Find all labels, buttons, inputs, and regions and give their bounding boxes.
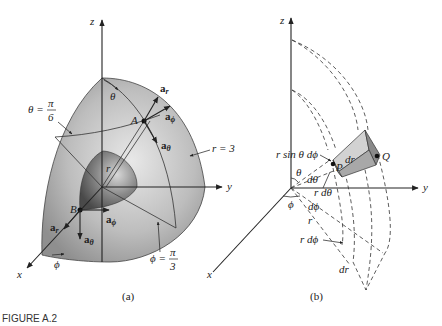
figure-canvas: z y x θ θ = π 6 r = 3 A ar [0, 0, 442, 326]
svg-text:ϕ =: ϕ = [150, 252, 166, 264]
z-axis-label-b: z [279, 14, 285, 26]
theta-arc-b [291, 178, 298, 182]
r-dphi-label: r dϕ [300, 233, 319, 245]
dashed-bottom-1 [353, 253, 385, 290]
phi-arc-b [283, 196, 300, 197]
point-P [331, 162, 336, 167]
dashed-proj-3 [362, 156, 372, 290]
svg-text:B: B [70, 203, 77, 215]
theta-label-a: θ [110, 90, 116, 102]
x-axis-label-b: x [206, 268, 212, 280]
dashed-arc-outer-2 [292, 40, 358, 130]
point-Q [375, 154, 380, 159]
r-sin-theta-dphi-label: r sin θ dϕ [276, 148, 318, 160]
r-sin-theta-dphi-arrow [320, 155, 331, 161]
svg-text:π: π [48, 97, 54, 109]
x-axis-label-a: x [16, 268, 22, 280]
dphi-label: dϕ [308, 200, 320, 212]
panel-a-label: (a) [122, 290, 135, 303]
dr-bottom-label: dr [339, 263, 350, 275]
panel-a: z y x θ θ = π 6 r = 3 A ar [16, 15, 235, 303]
svg-text:r = 3: r = 3 [212, 142, 235, 154]
svg-text:A: A [130, 114, 138, 126]
svg-text:3: 3 [169, 260, 176, 272]
svg-text:θ =: θ = [28, 103, 44, 115]
dashed-proj-4 [378, 155, 390, 253]
r-label-b: r [308, 214, 313, 226]
dashed-arc-outer-1 [292, 40, 368, 130]
y-axis-label-a: y [226, 180, 232, 192]
dashed-radial-phi2 [291, 188, 350, 265]
theta-pi6-label: θ = π 6 [28, 97, 72, 134]
z-axis-label-a: z [89, 15, 95, 27]
dashed-proj-1 [333, 168, 343, 245]
theta-label-b: θ [296, 166, 302, 178]
dr-top-label: dr [345, 153, 356, 165]
svg-text:ar: ar [160, 82, 170, 96]
r-label-a: r [106, 162, 111, 174]
point-Q-label: Q [382, 150, 390, 162]
figure-caption: FIGURE A.2 [2, 313, 57, 324]
panel-b: z y x P Q dr r sin θ dϕ [206, 14, 428, 303]
r-dphi-arrow [323, 240, 343, 243]
phi-label-b: ϕ [288, 198, 294, 210]
y-axis-label-b: y [422, 181, 428, 193]
panel-b-label: (b) [310, 290, 323, 303]
x-axis-b [213, 188, 291, 272]
svg-text:6: 6 [48, 111, 54, 123]
r-equals-3-label: r = 3 [190, 142, 235, 156]
svg-text:π: π [170, 246, 176, 258]
dashed-proj-2 [343, 165, 354, 262]
dashed-arc-inner-1 [292, 90, 336, 150]
point-P-label: P [335, 161, 343, 173]
phi-label-a: ϕ [54, 258, 60, 270]
dtheta-label: dθ [307, 173, 319, 185]
